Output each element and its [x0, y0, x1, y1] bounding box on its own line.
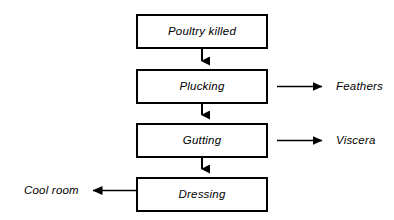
process-box-label: Gutting: [183, 135, 221, 147]
output-label-feathers: Feathers: [336, 81, 383, 93]
output-label-cool-room: Cool room: [24, 185, 79, 197]
output-label-viscera: Viscera: [336, 135, 376, 147]
process-box-poultry-killed: Poultry killed: [136, 14, 268, 49]
process-box-plucking: Plucking: [136, 69, 268, 104]
process-box-label: Plucking: [179, 81, 224, 93]
flowchart-diagram: Poultry killed Plucking Gutting Dressing…: [0, 0, 394, 220]
process-box-dressing: Dressing: [136, 177, 268, 212]
process-box-label: Dressing: [179, 189, 226, 201]
process-box-label: Poultry killed: [168, 26, 236, 38]
process-box-gutting: Gutting: [136, 123, 268, 158]
